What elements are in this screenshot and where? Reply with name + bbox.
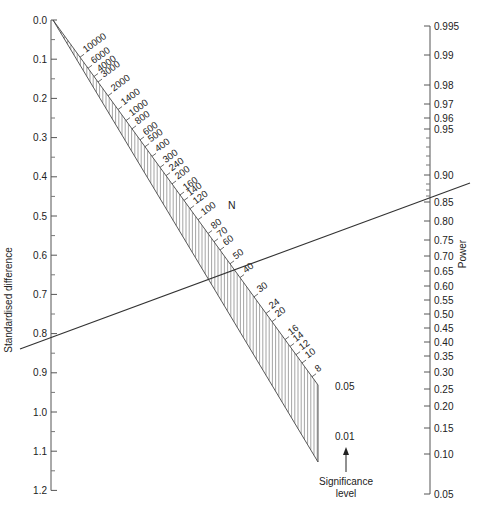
left-tick-label: 0.5 [33,211,47,222]
power-tick-label: 0.995 [434,21,459,32]
power-axis: 0.9950.990.980.970.960.950.900.850.800.7… [424,21,459,500]
power-tick-label: 0.25 [434,384,454,395]
power-tick-label: 0.65 [434,266,454,277]
n-scale-title: N [228,199,236,211]
power-tick-label: 0.20 [434,401,454,412]
left-tick-label: 0.2 [33,93,47,104]
left-tick-label: 0.4 [33,171,47,182]
power-tick-label: 0.35 [434,351,454,362]
left-tick-label: 1.1 [33,446,47,457]
n-scale: 1000060004000300020001400100080060050040… [80,30,323,376]
left-axis-title: Standardised difference [3,247,14,353]
left-tick-label: 0.8 [33,328,47,339]
power-tick-label: 0.50 [434,309,454,320]
power-tick-label: 0.97 [434,99,454,110]
power-tick-label: 0.80 [434,216,454,227]
left-tick-label: 0.1 [33,54,47,65]
power-tick-label: 0.60 [434,281,454,292]
power-tick-label: 0.95 [434,124,454,135]
power-tick-label: 0.30 [434,367,454,378]
significance-0-05-label: 0.05 [335,381,355,392]
power-tick-label: 0.40 [434,337,454,348]
power-tick-label: 0.85 [434,197,454,208]
power-tick-label: 0.75 [434,235,454,246]
power-tick-label: 0.90 [434,170,454,181]
n-tick-label: 8 [312,362,323,374]
power-tick-label: 0.45 [434,323,454,334]
power-tick-label: 0.55 [434,295,454,306]
power-tick-label: 0.70 [434,251,454,262]
sample-size-band [53,20,318,462]
significance-0-01-label: 0.01 [335,431,355,442]
power-tick-label: 0.98 [434,80,454,91]
significance-title-line1: Significance [319,476,373,487]
power-tick-label: 0.96 [434,113,454,124]
power-tick-label: 0.10 [434,449,454,460]
nomogram-chart: 0.00.10.20.30.40.50.60.70.80.91.01.11.2 … [0,0,486,513]
power-tick-label: 0.99 [434,50,454,61]
left-tick-label: 1.0 [33,407,47,418]
left-tick-label: 0.0 [33,15,47,26]
left-tick-label: 0.9 [33,367,47,378]
left-tick-label: 0.3 [33,132,47,143]
arrow-up-icon [343,447,349,472]
right-axis-title: Power [457,239,468,268]
n-tick-label: 40 [240,260,255,275]
left-tick-label: 1.2 [33,485,47,496]
n-tick-label: 30 [254,279,269,294]
power-tick-label: 0.05 [434,489,454,500]
significance-title-line2: level [336,488,357,499]
n-tick-label: 50 [230,246,245,261]
left-tick-label: 0.7 [33,289,47,300]
standardised-difference-axis: 0.00.10.20.30.40.50.60.70.80.91.01.11.2 [33,15,57,496]
power-tick-label: 0.15 [434,423,454,434]
left-tick-label: 0.6 [33,250,47,261]
